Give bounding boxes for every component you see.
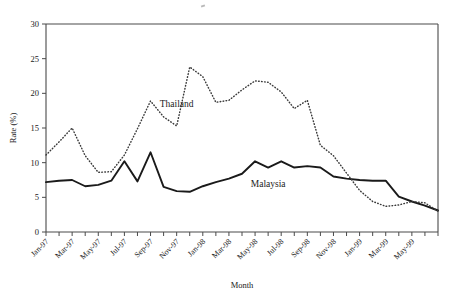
x-axis-tick-label: May-99 [392, 237, 416, 261]
x-axis-tick-label: Jan-98 [186, 237, 207, 258]
x-axis-tick-label: Jan-97 [29, 237, 50, 258]
x-axis-tick-label: Jan-99 [343, 237, 364, 258]
x-axis-tick-label: Nov-97 [157, 237, 181, 261]
y-axis-tick-label: 20 [31, 88, 40, 98]
y-axis-tick-label: 5 [35, 192, 39, 202]
x-axis-tick-label: Nov-98 [314, 237, 338, 261]
x-axis-tick-label: May-98 [235, 237, 259, 261]
x-axis-tick-label: May-97 [78, 237, 102, 261]
x-axis-tick-label: Mar-97 [53, 237, 76, 260]
series-annotation-malaysia: Malaysia [251, 179, 287, 189]
line-chart: 051015202530Rate (%)Jan-97Mar-97May-97Ju… [0, 0, 470, 297]
y-axis-tick-label: 15 [31, 123, 40, 133]
y-axis-tick-label: 0 [35, 227, 39, 237]
x-axis-tick-label: Mar-99 [367, 237, 390, 260]
x-axis-tick-label: Mar-98 [210, 237, 233, 260]
y-axis-title: Rate (%) [8, 113, 18, 144]
x-axis-tick-label: Sep-98 [289, 237, 311, 259]
y-axis-tick-label: 25 [31, 54, 40, 64]
y-axis-tick-label: 10 [31, 158, 40, 168]
series-annotation-thailand: Thailand [160, 99, 194, 109]
plot-frame [46, 24, 438, 232]
x-axis-title: Month [231, 280, 254, 290]
chart-figure: 051015202530Rate (%)Jan-97Mar-97May-97Ju… [0, 0, 470, 297]
x-axis-tick-label: Sep-97 [133, 237, 155, 259]
scan-speck [201, 4, 205, 7]
x-axis-tick-label: Jul-98 [265, 237, 286, 258]
y-axis-tick-label: 30 [31, 19, 40, 29]
series-line-malaysia [46, 152, 438, 210]
x-axis-tick-label: Jul-97 [108, 237, 129, 258]
series-line-thailand [46, 67, 438, 211]
